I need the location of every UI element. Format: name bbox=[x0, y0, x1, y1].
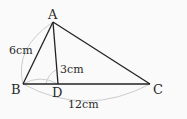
label-a: A bbox=[47, 7, 58, 22]
measure-bc: 12cm bbox=[68, 98, 99, 111]
angle-arc-b bbox=[23, 79, 58, 84]
altitude-ad bbox=[53, 22, 58, 84]
measure-ad: 3cm bbox=[60, 63, 84, 76]
measure-ab: 6cm bbox=[9, 44, 33, 57]
label-b: B bbox=[11, 82, 21, 97]
label-d: D bbox=[52, 85, 62, 100]
label-c: C bbox=[153, 82, 163, 97]
triangle-diagram: A B C D 6cm 3cm 12cm bbox=[0, 0, 187, 119]
